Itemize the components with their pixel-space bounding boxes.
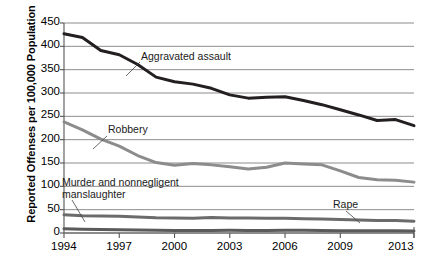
- series-label-line1: Murder and nonnegligent: [62, 176, 179, 188]
- series-line-3: [64, 215, 414, 221]
- x-tick-label: 1994: [51, 240, 77, 252]
- x-tick-label: 2000: [162, 240, 188, 252]
- plot-area: [0, 0, 441, 270]
- x-axis-tick-labels: 1994199720002003200620092013: [0, 236, 441, 260]
- series-label-line2: manslaughter: [62, 188, 179, 200]
- x-tick-label: 1997: [106, 240, 132, 252]
- series-label-2: Murder and nonnegligentmanslaughter: [62, 176, 179, 200]
- series-label-1: Robbery: [108, 123, 148, 135]
- annotation-leader-2: [72, 200, 85, 222]
- x-tick-label: 2003: [217, 240, 243, 252]
- series-label-0: Aggravated assault: [141, 50, 231, 62]
- series-line-2: [64, 229, 414, 231]
- line-chart: Reported Offenses per 100,000 Population…: [0, 0, 441, 270]
- series-line-0: [64, 34, 414, 126]
- series-label-3: Rape: [333, 198, 358, 210]
- annotation-leader-0: [126, 62, 140, 76]
- x-tick-label: 2013: [388, 240, 414, 252]
- x-tick-label: 2009: [327, 240, 353, 252]
- x-tick-label: 2006: [272, 240, 298, 252]
